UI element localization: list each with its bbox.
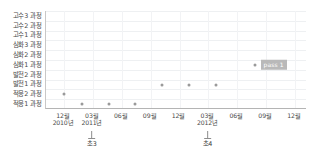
- y-axis-label: 고수3 과정: [0, 13, 42, 19]
- x-axis-labels: 12월2010년03월2011년06월09월12월03월2012년06월09월1…: [45, 112, 306, 166]
- data-point[interactable]: [80, 103, 83, 106]
- annotation-stem-icon: [207, 131, 208, 138]
- grade-annotation: 초4: [203, 131, 213, 147]
- y-axis-label: 적응2 과정: [0, 91, 42, 97]
- y-axis-label: 적응1 과정: [0, 101, 42, 107]
- annotation-label: 초4: [203, 141, 213, 147]
- vertical-gridline: [208, 11, 209, 108]
- progress-scatter-chart: 고수3 과정고수2 과정고수1 과정심화3 과정심화2 과정심화1 과정발전2 …: [0, 0, 309, 166]
- data-point[interactable]: [107, 103, 110, 106]
- x-axis-tick: 06월: [114, 112, 128, 119]
- x-axis-month-label: 06월: [229, 112, 243, 119]
- y-axis-label: 발전2 과정: [0, 72, 42, 78]
- vertical-gridline: [151, 11, 152, 108]
- data-point[interactable]: [133, 103, 136, 106]
- x-axis-tick: 12월: [287, 112, 301, 119]
- x-axis-month-label: 09월: [143, 112, 157, 119]
- x-axis-tick: 03월2011년: [82, 112, 103, 127]
- x-axis-year-label: 2010년: [53, 119, 74, 127]
- annotation-stem-icon: [91, 131, 92, 138]
- y-axis-labels: 고수3 과정고수2 과정고수1 과정심화3 과정심화2 과정심화1 과정발전2 …: [0, 0, 42, 166]
- annotation-cap-icon: [88, 138, 95, 139]
- data-point[interactable]: [160, 83, 163, 86]
- data-point[interactable]: [63, 93, 66, 96]
- x-axis-tick: 06월: [229, 112, 243, 119]
- y-axis-label: 고수2 과정: [0, 23, 42, 29]
- x-axis-month-label: 03월: [197, 112, 218, 119]
- annotation-cap-icon: [204, 138, 211, 139]
- x-axis-tick: 03월2012년: [197, 112, 218, 127]
- x-axis-tick: 12월2010년: [53, 112, 74, 127]
- x-axis-month-label: 06월: [114, 112, 128, 119]
- x-axis-month-label: 12월: [287, 112, 301, 119]
- x-axis-month-label: 12월: [172, 112, 186, 119]
- y-axis-label: 심화3 과정: [0, 42, 42, 48]
- y-axis-label: 심화1 과정: [0, 62, 42, 68]
- plot-area: pass 1: [45, 11, 306, 109]
- data-point-badge: pass 1: [261, 60, 287, 71]
- x-axis-month-label: 12월: [53, 112, 74, 119]
- x-axis-tick: 12월: [172, 112, 186, 119]
- data-point[interactable]: [187, 83, 190, 86]
- y-axis-label: 심화2 과정: [0, 52, 42, 58]
- annotation-label: 초3: [87, 141, 97, 147]
- y-axis-label: 발전1 과정: [0, 81, 42, 87]
- vertical-gridline: [180, 11, 181, 108]
- x-axis-year-label: 2012년: [197, 119, 218, 127]
- data-point[interactable]: [253, 63, 256, 66]
- grade-annotation: 초3: [87, 131, 97, 147]
- vertical-gridline: [93, 11, 94, 108]
- vertical-gridline: [295, 11, 296, 108]
- x-axis-month-label: 03월: [82, 112, 103, 119]
- x-axis-year-label: 2011년: [82, 119, 103, 127]
- x-axis-tick: 09월: [258, 112, 272, 119]
- x-axis-tick: 09월: [143, 112, 157, 119]
- data-point[interactable]: [214, 83, 217, 86]
- y-axis-label: 고수1 과정: [0, 32, 42, 38]
- vertical-gridline: [122, 11, 123, 108]
- x-axis-month-label: 09월: [258, 112, 272, 119]
- vertical-gridline: [237, 11, 238, 108]
